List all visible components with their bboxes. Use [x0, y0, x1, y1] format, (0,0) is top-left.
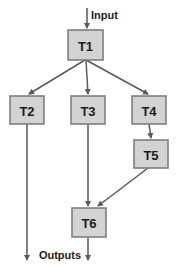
node-t6: T6 — [72, 208, 106, 237]
edge-t1-to-t4 — [86, 60, 148, 94]
node-label-t3: T3 — [80, 104, 95, 119]
node-label-t4: T4 — [141, 104, 157, 119]
node-t1: T1 — [68, 30, 103, 60]
input-label: Input — [91, 9, 118, 21]
node-t5: T5 — [134, 140, 168, 168]
outputs-label: Outputs — [39, 249, 81, 261]
edge-t1-to-t3 — [86, 60, 88, 94]
node-label-t6: T6 — [81, 216, 96, 231]
node-t2: T2 — [10, 96, 44, 124]
flow-diagram-canvas: T1T2T3T4T5T6 Input Outputs — [0, 0, 180, 275]
node-label-t5: T5 — [143, 148, 158, 163]
edge-t5-to-t6 — [98, 168, 148, 206]
node-label-t2: T2 — [19, 104, 34, 119]
node-t3: T3 — [71, 96, 105, 124]
edge-t4-to-t5 — [149, 124, 151, 138]
node-label-t1: T1 — [78, 39, 93, 54]
edge-t1-to-t2 — [29, 60, 85, 94]
flow-diagram: T1T2T3T4T5T6 Input Outputs — [0, 0, 180, 275]
node-t4: T4 — [132, 96, 166, 124]
